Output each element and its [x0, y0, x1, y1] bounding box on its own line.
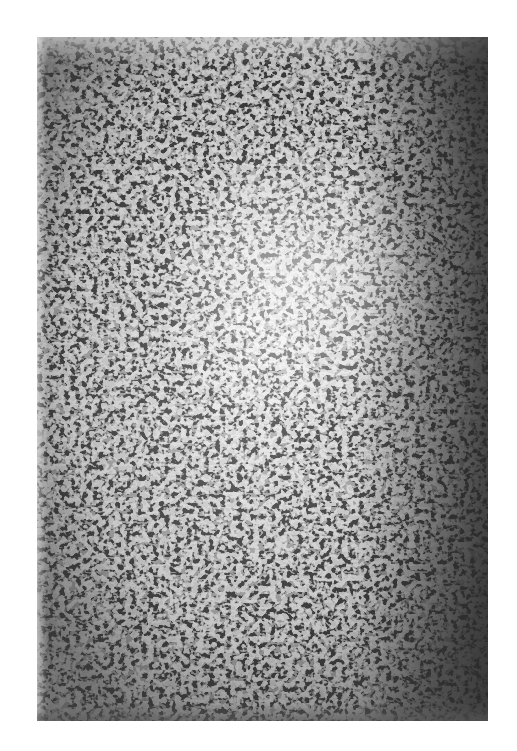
bottom-edge-fade	[37, 703, 488, 721]
painting	[37, 37, 488, 721]
left-edge-fade	[37, 37, 47, 721]
white-writing-texture	[37, 37, 488, 721]
